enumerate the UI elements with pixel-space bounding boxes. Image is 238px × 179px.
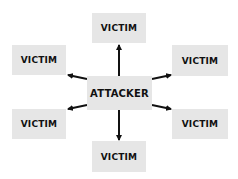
victim-label: VICTIM	[101, 152, 138, 162]
victim-label: VICTIM	[21, 55, 58, 65]
victim-label: VICTIM	[21, 119, 58, 129]
victim-label: VICTIM	[182, 119, 219, 129]
attacker-node: ATTACKER	[87, 76, 152, 110]
victim-node-top: VICTIM	[92, 13, 146, 43]
arrow-to-upper-left	[68, 75, 87, 79]
arrow-to-upper-right	[152, 75, 171, 79]
attacker-label: ATTACKER	[90, 88, 149, 99]
arrow-to-lower-right	[152, 105, 171, 109]
victim-label: VICTIM	[182, 56, 219, 66]
victim-node-upper-right: VICTIM	[172, 45, 228, 76]
victim-node-lower-right: VICTIM	[172, 109, 228, 139]
victim-node-upper-left: VICTIM	[12, 45, 66, 75]
victim-node-lower-left: VICTIM	[12, 109, 66, 139]
arrow-to-lower-left	[68, 105, 87, 109]
victim-node-bottom: VICTIM	[92, 141, 146, 172]
victim-label: VICTIM	[101, 23, 138, 33]
